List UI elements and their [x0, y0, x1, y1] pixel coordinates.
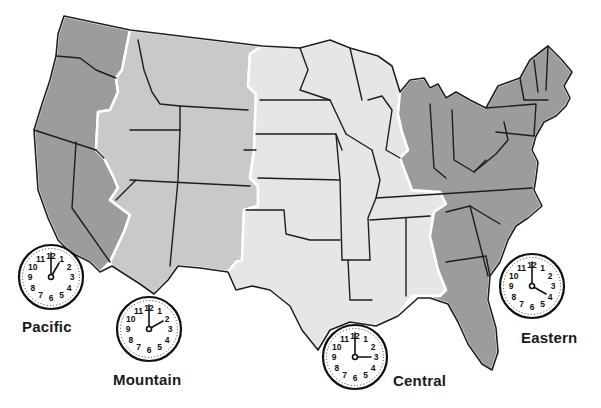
svg-text:3: 3	[551, 281, 556, 291]
svg-text:2: 2	[165, 314, 170, 324]
svg-text:2: 2	[371, 342, 376, 352]
svg-text:8: 8	[334, 363, 339, 373]
svg-text:9: 9	[332, 352, 337, 362]
svg-text:6: 6	[147, 345, 152, 355]
svg-text:4: 4	[67, 283, 72, 293]
svg-text:7: 7	[519, 299, 524, 309]
svg-text:9: 9	[28, 272, 33, 282]
svg-text:7: 7	[342, 370, 347, 380]
svg-text:9: 9	[509, 281, 514, 291]
svg-text:2: 2	[67, 262, 72, 272]
svg-text:5: 5	[540, 299, 545, 309]
svg-text:5: 5	[157, 342, 162, 352]
eastern-label: Eastern	[521, 329, 577, 346]
svg-text:8: 8	[128, 335, 133, 345]
mountain-label: Mountain	[113, 371, 181, 388]
svg-text:4: 4	[548, 292, 553, 302]
us-time-zone-map: 12 1 2 3 4 5 6 7 8 9 10 11 12 1 2 3 4 5 …	[0, 0, 601, 408]
svg-text:3: 3	[168, 324, 173, 334]
svg-text:3: 3	[70, 272, 75, 282]
svg-text:11: 11	[517, 263, 526, 273]
svg-text:5: 5	[363, 370, 368, 380]
svg-text:1: 1	[59, 254, 64, 264]
eastern-clock: 12 1 2 3 4 5 6 7 8 9 10 11	[500, 254, 564, 318]
svg-text:11: 11	[340, 334, 349, 344]
svg-text:8: 8	[511, 292, 516, 302]
svg-text:5: 5	[59, 290, 64, 300]
mountain-clock: 12 1 2 3 4 5 6 7 8 9 10 11	[117, 297, 181, 361]
svg-text:1: 1	[157, 306, 162, 316]
svg-text:7: 7	[38, 290, 43, 300]
svg-text:6: 6	[353, 373, 358, 383]
svg-text:4: 4	[165, 335, 170, 345]
svg-text:11: 11	[36, 254, 45, 264]
central-clock: 12 1 2 3 4 5 6 7 8 9 10 11	[323, 325, 387, 389]
svg-text:7: 7	[136, 342, 141, 352]
svg-text:4: 4	[371, 363, 376, 373]
svg-text:2: 2	[548, 271, 553, 281]
svg-text:11: 11	[134, 306, 143, 316]
svg-text:1: 1	[363, 334, 368, 344]
svg-text:3: 3	[374, 352, 379, 362]
central-label: Central	[393, 372, 446, 389]
pacific-clock: 12 1 2 3 4 5 6 7 8 9 10 11	[19, 245, 83, 309]
svg-text:6: 6	[530, 302, 535, 312]
pacific-label: Pacific	[22, 318, 72, 335]
svg-text:1: 1	[540, 263, 545, 273]
svg-text:9: 9	[126, 324, 131, 334]
svg-text:8: 8	[30, 283, 35, 293]
svg-text:6: 6	[49, 293, 54, 303]
